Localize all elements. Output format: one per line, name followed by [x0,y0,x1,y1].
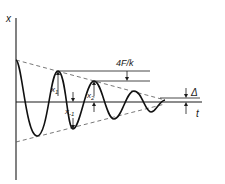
x-axis-label: t [196,108,200,119]
friction-damped-oscillation-diagram: x t 4F/k x1 x-1 x2 Δ [0,0,225,184]
y-axis-label: x [5,13,12,24]
dead-zone-label: Δ [190,87,198,98]
decrement-label: 4F/k [116,58,134,68]
x-minus1-label: x-1 [64,107,74,117]
x1-label: x1 [50,85,58,95]
